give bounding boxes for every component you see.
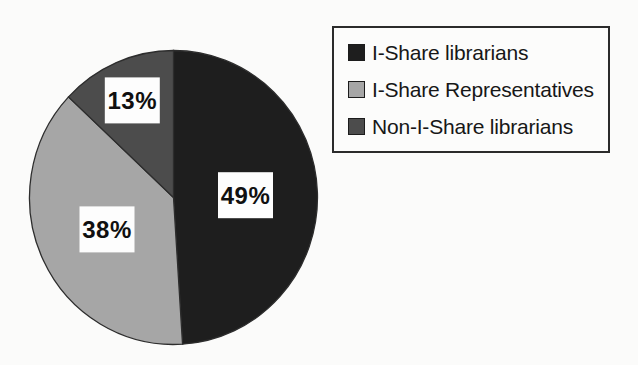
slice-label-text: 38% xyxy=(82,216,132,243)
legend-item-label: I-Share librarians xyxy=(372,41,528,65)
legend-item-label: Non-I-Share librarians xyxy=(372,115,573,139)
slice-label: 38% xyxy=(80,206,135,252)
legend-swatch-icon xyxy=(348,44,365,61)
slice-label-text: 49% xyxy=(221,182,271,209)
slice-label: 49% xyxy=(218,172,273,218)
slice-label: 13% xyxy=(105,77,160,123)
legend-item: I-Share librarians xyxy=(348,36,604,70)
legend-swatch-icon xyxy=(348,118,365,135)
legend-swatch-icon xyxy=(348,81,365,98)
legend-item-label: I-Share Representatives xyxy=(372,78,594,102)
legend: I-Share librarians I-Share Representativ… xyxy=(332,26,610,153)
chart-page: 49%38%13% I-Share librarians I-Share Rep… xyxy=(0,0,638,365)
legend-item: Non-I-Share librarians xyxy=(348,110,604,144)
legend-item: I-Share Representatives xyxy=(348,73,604,107)
slice-label-text: 13% xyxy=(108,87,158,114)
